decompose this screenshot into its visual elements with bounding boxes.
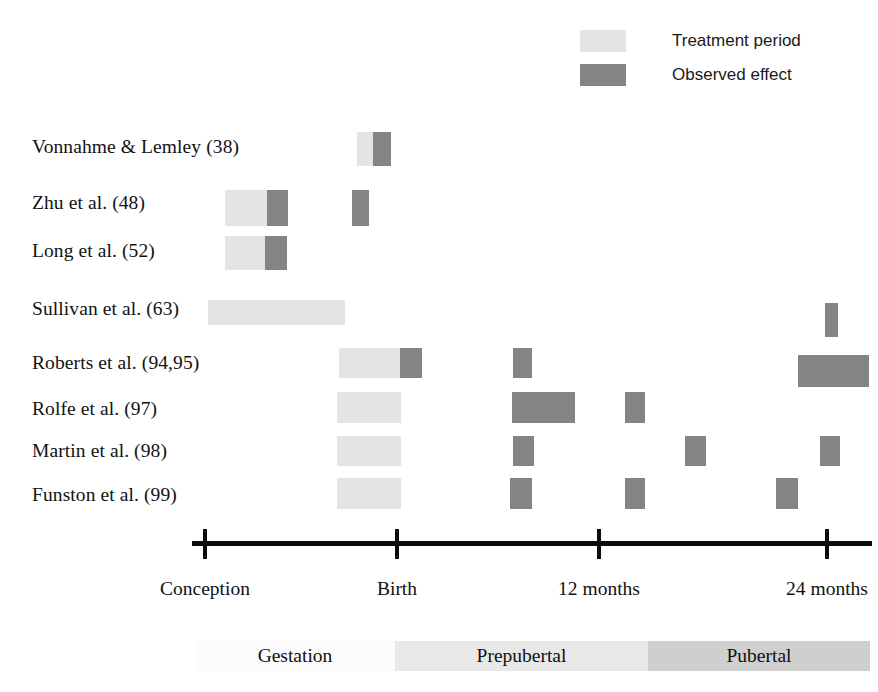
observed-effect-bar <box>625 478 645 509</box>
study-label: Funston et al. (99) <box>32 484 177 506</box>
stage-segment-prepubertal: Prepubertal <box>395 641 648 671</box>
observed-effect-bar <box>625 392 645 423</box>
stage-segment-pubertal: Pubertal <box>648 641 870 671</box>
treatment-period-bar <box>225 190 267 226</box>
observed-effect-bar <box>267 190 288 226</box>
observed-effect-bar <box>776 478 798 509</box>
study-label: Roberts et al. (94,95) <box>32 352 199 374</box>
study-label: Long et al. (52) <box>32 240 155 262</box>
treatment-period-bar <box>337 478 401 509</box>
legend-label-effect: Observed effect <box>672 64 792 86</box>
treatment-period-bar <box>337 436 401 466</box>
axis-line <box>192 541 872 546</box>
axis-tick-label: Birth <box>307 578 487 600</box>
observed-effect-bar <box>265 236 287 270</box>
observed-effect-bar <box>820 436 840 466</box>
treatment-period-bar <box>337 392 401 423</box>
axis-tick-label: 12 months <box>509 578 689 600</box>
observed-effect-bar <box>400 348 422 378</box>
observed-effect-bar <box>825 303 838 337</box>
stage-segment-gestation: Gestation <box>195 641 395 671</box>
observed-effect-bar <box>510 478 532 509</box>
axis-tick-label: Conception <box>115 578 295 600</box>
study-label: Martin et al. (98) <box>32 440 167 462</box>
axis-tick-label: 24 months <box>737 578 878 600</box>
observed-effect-bar <box>352 190 369 226</box>
study-label: Vonnahme & Lemley (38) <box>32 136 239 158</box>
axis-tick <box>203 529 207 559</box>
legend-item-effect: Observed effect <box>580 64 792 86</box>
axis-tick <box>395 529 399 559</box>
figure-canvas: Treatment periodObserved effect Vonnahme… <box>0 0 878 692</box>
legend-item-treatment: Treatment period <box>580 30 801 52</box>
treatment-period-bar <box>339 348 400 378</box>
legend-swatch-treatment <box>580 30 626 52</box>
observed-effect-bar <box>513 436 534 466</box>
treatment-period-bar <box>357 132 373 166</box>
legend-label-treatment: Treatment period <box>672 30 801 52</box>
observed-effect-bar <box>512 392 575 423</box>
treatment-period-bar <box>225 236 265 270</box>
observed-effect-bar <box>373 132 391 166</box>
legend-swatch-effect <box>580 64 626 86</box>
treatment-period-bar <box>208 300 345 325</box>
observed-effect-bar <box>513 348 532 378</box>
observed-effect-bar <box>798 355 869 387</box>
study-label: Rolfe et al. (97) <box>32 398 157 420</box>
study-label: Zhu et al. (48) <box>32 192 145 214</box>
observed-effect-bar <box>685 436 706 466</box>
axis-tick <box>825 529 829 559</box>
axis-tick <box>597 529 601 559</box>
study-label: Sullivan et al. (63) <box>32 298 179 320</box>
